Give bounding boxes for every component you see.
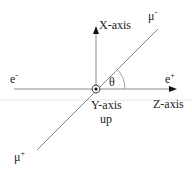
y-axis-dot-icon xyxy=(94,87,97,90)
z-axis-label: Z-axis xyxy=(153,97,184,111)
z-axis-arrowhead-icon xyxy=(169,86,177,92)
theta-label: θ xyxy=(109,75,115,89)
y-axis-label: Y-axis xyxy=(91,98,122,112)
electron-label: e- xyxy=(10,71,18,86)
muon-plus-label: μ+ xyxy=(14,149,25,164)
positron-label: e+ xyxy=(165,71,175,86)
y-axis-up-label: up xyxy=(100,112,112,126)
coordinate-diagram: X-axis μ- e- θ e+ Y-axis up Z-axis μ+ xyxy=(0,0,192,175)
x-axis-label: X-axis xyxy=(99,18,131,32)
theta-arc xyxy=(117,69,126,90)
muon-minus-label: μ- xyxy=(148,8,157,23)
